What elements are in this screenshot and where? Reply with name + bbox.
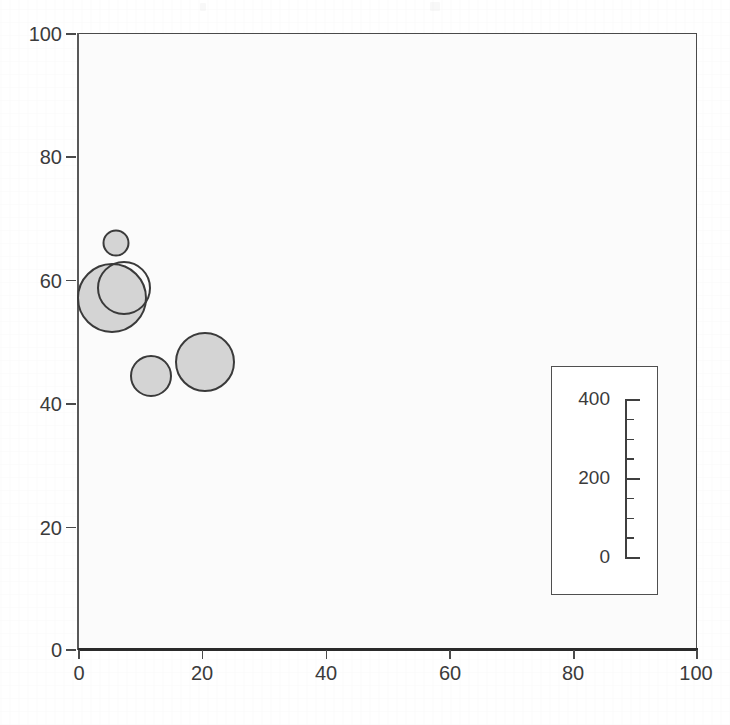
y-tick-0 bbox=[66, 649, 76, 651]
y-tick-80 bbox=[66, 156, 76, 158]
x-tick-label-20: 20 bbox=[191, 662, 213, 685]
y-tick-label-40: 40 bbox=[40, 393, 62, 416]
data-bubble[interactable] bbox=[175, 332, 235, 392]
y-axis-line bbox=[77, 33, 79, 650]
x-tick-label-80: 80 bbox=[562, 662, 584, 685]
legend-label-200: 200 bbox=[578, 467, 610, 489]
y-tick-60 bbox=[66, 280, 76, 282]
x-tick-0 bbox=[78, 650, 80, 659]
legend-label-0: 0 bbox=[599, 546, 610, 568]
y-tick-100 bbox=[66, 33, 76, 35]
y-tick-20 bbox=[66, 527, 76, 529]
y-tick-40 bbox=[66, 403, 76, 405]
y-tick-label-80: 80 bbox=[40, 146, 62, 169]
x-tick-80 bbox=[573, 650, 575, 659]
x-tick-100 bbox=[696, 650, 698, 659]
data-bubble[interactable] bbox=[130, 355, 172, 397]
size-legend: 400 200 0 bbox=[551, 366, 658, 595]
x-tick-40 bbox=[326, 650, 328, 659]
legend-tick-50 bbox=[625, 537, 634, 539]
y-tick-label-100: 100 bbox=[29, 23, 62, 46]
legend-tick-100 bbox=[625, 518, 634, 520]
x-tick-60 bbox=[449, 650, 451, 659]
x-axis-line bbox=[78, 648, 698, 651]
legend-tick-300 bbox=[625, 439, 634, 441]
bleed-artifact bbox=[430, 2, 440, 11]
legend-tick-150 bbox=[625, 498, 634, 500]
legend-tick-200 bbox=[625, 478, 640, 480]
legend-tick-400 bbox=[625, 399, 640, 401]
y-tick-label-60: 60 bbox=[40, 270, 62, 293]
x-tick-20 bbox=[202, 650, 204, 659]
y-tick-label-0: 0 bbox=[51, 639, 62, 662]
x-tick-label-0: 0 bbox=[73, 662, 84, 685]
legend-label-400: 400 bbox=[578, 388, 610, 410]
bleed-artifact bbox=[200, 3, 206, 11]
x-tick-label-60: 60 bbox=[439, 662, 461, 685]
data-bubble[interactable] bbox=[102, 229, 129, 256]
bubble-chart: 0 20 40 60 80 100 100 80 60 40 20 0 400 … bbox=[0, 0, 730, 725]
x-tick-label-100: 100 bbox=[679, 662, 712, 685]
legend-tick-0 bbox=[625, 557, 640, 559]
legend-tick-350 bbox=[625, 419, 634, 421]
data-bubble[interactable] bbox=[97, 261, 151, 315]
legend-tick-250 bbox=[625, 458, 634, 460]
x-tick-label-40: 40 bbox=[315, 662, 337, 685]
y-tick-label-20: 20 bbox=[40, 517, 62, 540]
